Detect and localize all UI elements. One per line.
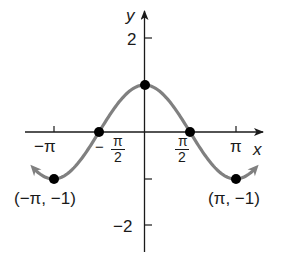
y-tick-label-neg2: −2 bbox=[113, 217, 132, 236]
annotation-neg-pi-neg1: (−π, −1) bbox=[14, 189, 76, 208]
x-tick-label-neg-pi: −π bbox=[34, 137, 56, 156]
cosine-graph: y x 2 −2 −π − π 2 π 2 π (−π, −1) (π, −1) bbox=[0, 0, 281, 257]
x-tick-label-half-pi: π 2 bbox=[175, 133, 189, 165]
x-tick-label-neg-half-pi: − π 2 bbox=[95, 133, 125, 165]
svg-text:2: 2 bbox=[114, 149, 122, 165]
point-pi-min bbox=[231, 174, 241, 184]
point-zero-max bbox=[140, 80, 150, 90]
x-tick-label-pi: π bbox=[230, 137, 242, 156]
y-axis-label: y bbox=[125, 6, 136, 25]
point-neg-pi-min bbox=[49, 174, 59, 184]
annotation-pi-neg1: (π, −1) bbox=[208, 189, 260, 208]
svg-text:−: − bbox=[95, 138, 104, 155]
point-neg-half-pi-zero bbox=[94, 127, 104, 137]
svg-text:π: π bbox=[178, 133, 188, 149]
x-axis-label: x bbox=[252, 140, 262, 159]
svg-text:π: π bbox=[113, 133, 123, 149]
y-tick-label-2: 2 bbox=[127, 30, 136, 49]
svg-text:2: 2 bbox=[178, 149, 186, 165]
